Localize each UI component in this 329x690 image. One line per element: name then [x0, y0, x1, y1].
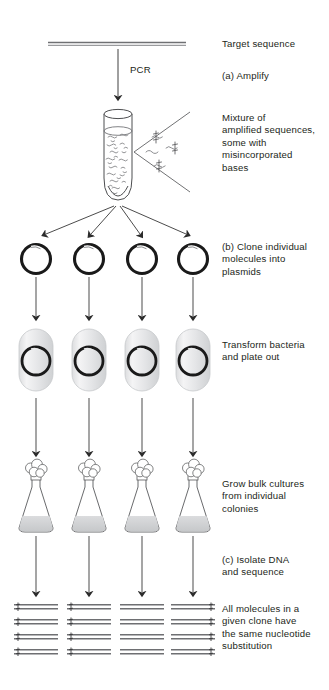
culture-flask: [19, 459, 53, 532]
dna-molecule: [67, 648, 111, 657]
plasmid-ring: [22, 245, 51, 274]
cloning-fanout-arrows: [46, 206, 186, 234]
caption-step-b-clone: (b) Clone individual molecules into plas…: [222, 241, 307, 278]
plasmid-row: [22, 245, 208, 274]
caption-mixture-of-amplified: Mixture of amplified sequences, some wit…: [222, 112, 315, 174]
dna-clone-group: [120, 604, 164, 655]
dna-molecule: [120, 649, 164, 655]
bacteria-row: [19, 329, 210, 391]
cotton-plug: [132, 459, 154, 477]
dna-clone-group: [14, 603, 58, 657]
figure-canvas: PCR Target sequence (a) Amplify Mixture …: [0, 0, 329, 690]
dna-molecule: [171, 618, 215, 627]
dna-molecule: [120, 619, 164, 625]
dna-molecule: [67, 618, 111, 627]
dna-molecule: [171, 633, 215, 642]
culture-flask: [125, 459, 159, 532]
caption-grow-bulk-cultures: Grow bulk cultures from individual colon…: [222, 478, 304, 515]
culture-arrows: [36, 398, 193, 452]
bacterium-with-plasmid: [125, 329, 159, 391]
bacterium-with-plasmid: [19, 329, 53, 391]
culture-flask: [176, 459, 210, 532]
bacterium-with-plasmid: [72, 329, 106, 391]
dna-clone-group: [171, 603, 215, 657]
caption-step-c-isolate-dna: (c) Isolate DNA and sequence: [222, 554, 289, 579]
dna-molecule: [67, 603, 111, 612]
target-sequence-duplex: [48, 43, 186, 46]
dna-molecule: [171, 648, 215, 657]
dna-molecule: [14, 648, 58, 657]
pcr-label: PCR: [130, 64, 151, 76]
dna-clone-group: [67, 603, 111, 657]
dna-molecule: [171, 603, 215, 612]
dna-molecule: [14, 618, 58, 627]
culture-flask: [72, 459, 106, 532]
dna-molecule: [14, 633, 58, 642]
flask-row: [19, 459, 210, 532]
plasmid-ring: [128, 245, 157, 274]
cotton-plug: [183, 459, 205, 477]
magnifier-fan-lines: [134, 112, 190, 192]
dna-molecule: [67, 633, 111, 642]
bacterium-with-plasmid: [176, 329, 210, 391]
cotton-plug: [26, 459, 48, 477]
caption-all-molecules-same: All molecules in a given clone have the …: [222, 603, 311, 653]
plasmid-ring: [75, 245, 104, 274]
cotton-plug: [79, 459, 101, 477]
plasmid-ring: [179, 245, 208, 274]
caption-target-sequence: Target sequence: [222, 38, 295, 50]
misincorporated-strand-detail: [146, 131, 178, 172]
caption-transform-bacteria: Transform bacteria and plate out: [222, 339, 305, 364]
caption-step-a-amplify: (a) Amplify: [222, 70, 269, 82]
dna-molecule: [120, 604, 164, 610]
reaction-tube: [104, 109, 132, 200]
transformation-arrows: [36, 277, 193, 316]
isolate-dna-arrows: [36, 536, 193, 592]
dna-molecule: [14, 603, 58, 612]
dna-molecule: [120, 634, 164, 640]
